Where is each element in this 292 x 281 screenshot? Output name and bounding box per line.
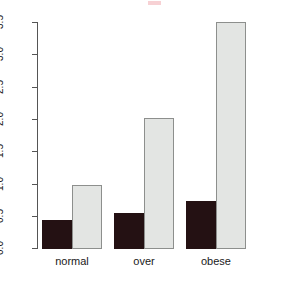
plot-area: 0.0 0.5 1.0 1.5 2.0 2.5 3.0 3.5 normal o… bbox=[0, 0, 292, 281]
y-axis-line bbox=[37, 22, 38, 249]
y-tick-0 bbox=[32, 248, 37, 249]
y-tick-2 bbox=[32, 184, 37, 185]
bar-normal-dark bbox=[42, 220, 72, 249]
y-tick-7 bbox=[32, 22, 37, 23]
y-tick-4 bbox=[32, 119, 37, 120]
y-tick-label-7: 3.5 bbox=[0, 0, 5, 52]
bar-chart: 0.0 0.5 1.0 1.5 2.0 2.5 3.0 3.5 normal o… bbox=[0, 0, 292, 281]
y-tick-5 bbox=[32, 87, 37, 88]
x-label-obese: obese bbox=[171, 255, 261, 268]
y-tick-3 bbox=[32, 151, 37, 152]
bar-obese-light bbox=[216, 22, 246, 249]
bar-over-dark bbox=[114, 213, 144, 249]
bar-obese-dark bbox=[186, 201, 216, 249]
bar-normal-light bbox=[72, 185, 102, 249]
y-tick-1 bbox=[32, 216, 37, 217]
bar-over-light bbox=[144, 118, 174, 249]
y-tick-6 bbox=[32, 54, 37, 55]
